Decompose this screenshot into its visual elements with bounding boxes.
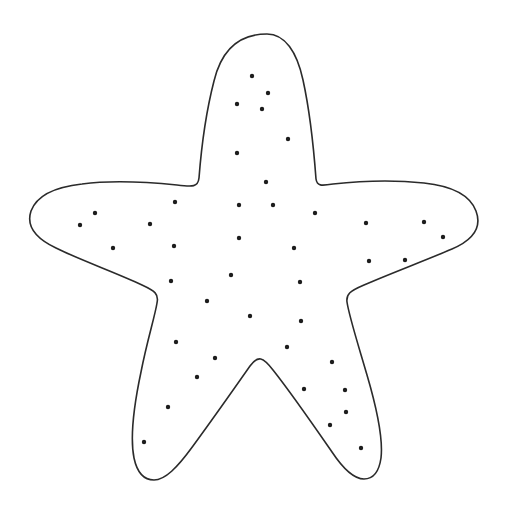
- speckle-dot: [248, 314, 252, 318]
- speckle-dot: [195, 375, 199, 379]
- speckle-dot: [166, 405, 170, 409]
- speckle-dot: [174, 340, 178, 344]
- speckle-dot: [364, 221, 368, 225]
- speckle-dot: [344, 410, 348, 414]
- speckle-dot: [235, 151, 239, 155]
- speckle-dot: [271, 203, 275, 207]
- speckle-dot: [237, 236, 241, 240]
- speckle-dot: [260, 107, 264, 111]
- speckle-dot: [237, 203, 241, 207]
- speckle-dot: [172, 244, 176, 248]
- speckle-dot: [235, 102, 239, 106]
- speckle-dot: [298, 280, 302, 284]
- speckle-dot: [205, 299, 209, 303]
- speckle-dot: [173, 200, 177, 204]
- drawing-canvas: [0, 0, 506, 513]
- speckle-dot: [359, 446, 363, 450]
- starfish-figure: [0, 0, 506, 513]
- speckle-dot: [285, 345, 289, 349]
- speckle-dot: [169, 279, 173, 283]
- speckle-dot: [264, 180, 268, 184]
- speckle-dot: [367, 259, 371, 263]
- speckle-dot: [422, 220, 426, 224]
- speckle-dot: [250, 74, 254, 78]
- speckle-dot: [313, 211, 317, 215]
- speckle-dot: [330, 360, 334, 364]
- speckle-dot: [328, 423, 332, 427]
- speckle-dot: [266, 91, 270, 95]
- speckle-dot: [343, 388, 347, 392]
- speckle-dot: [93, 211, 97, 215]
- speckle-dot: [403, 258, 407, 262]
- speckle-dot: [299, 319, 303, 323]
- speckle-dot: [142, 440, 146, 444]
- speckle-dot: [302, 387, 306, 391]
- speckle-dot: [441, 235, 445, 239]
- speckle-dot: [78, 223, 82, 227]
- speckle-dot: [148, 222, 152, 226]
- speckle-dot: [229, 273, 233, 277]
- speckle-dot: [292, 246, 296, 250]
- speckle-dot: [286, 137, 290, 141]
- speckle-dot: [111, 246, 115, 250]
- speckle-dot: [213, 356, 217, 360]
